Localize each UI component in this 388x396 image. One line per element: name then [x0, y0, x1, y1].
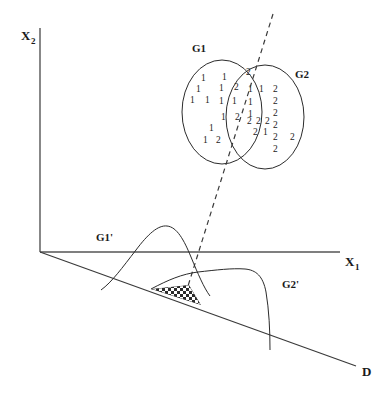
projected-label-g2: G2' [282, 278, 299, 290]
scatter-point-label: 1 [203, 135, 208, 145]
x1-axis-label: X [345, 254, 355, 269]
scatter-point-label: 1 [232, 96, 237, 106]
scatter-point-label: 1 [209, 123, 214, 133]
x2-axis-label: X [21, 28, 31, 43]
scatter-point-label: 1 [259, 84, 264, 94]
discriminant-boundary-dashed-line [188, 14, 273, 286]
density-curve-g2-projected [151, 269, 270, 350]
figure-canvas: X 2 X 1 D G1 G2 112112111111122121222221… [0, 0, 388, 396]
projected-group-labels: G1' G2' [96, 231, 299, 290]
x2-axis-subscript: 2 [31, 36, 36, 46]
d-axis-line [40, 252, 356, 366]
scatter-point-label: 1 [190, 95, 195, 105]
scatter-point-label: 1 [219, 83, 224, 93]
d-axis-label: D [362, 364, 371, 379]
scatter-point-label: 2 [234, 82, 239, 92]
scatter-point-label: 1 [205, 95, 210, 105]
scatter-point-label: 1 [201, 73, 206, 83]
scatter-point-label: 2 [290, 132, 295, 142]
scatter-point-label: 2 [246, 67, 251, 77]
scatter-point-label: 1 [219, 96, 224, 106]
scatter-point-label: 1 [248, 97, 253, 107]
group-labels: G1 G2 [192, 42, 310, 80]
scatter-point-label: 2 [247, 116, 252, 126]
scatter-point-label: 2 [273, 120, 278, 130]
x1-axis-subscript: 1 [355, 262, 360, 272]
scatter-point-label: 1 [196, 84, 201, 94]
scatter-point-label: 2 [273, 84, 278, 94]
scatter-point-label: 2 [273, 144, 278, 154]
group-label-g1: G1 [192, 42, 206, 54]
scatter-point-label: 1 [221, 112, 226, 122]
scatter-point-label: 1 [263, 127, 268, 137]
density-curve-g1-projected [101, 226, 210, 296]
projected-label-g1: G1' [96, 231, 113, 243]
scatter-point-label: 2 [273, 96, 278, 106]
discriminant-analysis-figure: X 2 X 1 D G1 G2 112112111111122121222221… [0, 0, 388, 396]
scatter-point-label: 2 [253, 127, 258, 137]
scatter-point-label: 2 [256, 116, 261, 126]
axis-labels: X 2 X 1 D [21, 28, 371, 379]
scatter-point-label: 2 [273, 108, 278, 118]
scatter-point-label: 2 [216, 135, 221, 145]
scatter-point-label: 1 [222, 72, 227, 82]
group-label-g2: G2 [295, 68, 310, 80]
scatter-point-label: 2 [273, 132, 278, 142]
scatter-point-label: 2 [265, 116, 270, 126]
